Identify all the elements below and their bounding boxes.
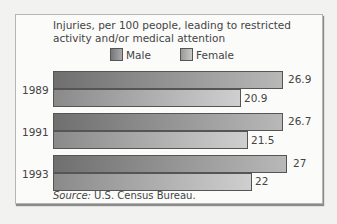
value-label: 20.9 xyxy=(244,92,267,104)
female-swatch-icon xyxy=(180,48,193,61)
legend-male-label: Male xyxy=(126,49,151,61)
source-note: Source: U.S. Census Bureau. xyxy=(53,190,196,201)
year-label: 1993 xyxy=(22,168,49,180)
bar-male-1991 xyxy=(53,113,283,131)
value-label: 27 xyxy=(293,157,306,169)
legend-female-label: Female xyxy=(196,49,234,61)
male-swatch-icon xyxy=(110,48,123,61)
bar-male-1993 xyxy=(53,155,287,173)
value-label: 22 xyxy=(255,175,268,187)
source-text: U.S. Census Bureau. xyxy=(91,190,196,201)
bar-female-1991 xyxy=(53,131,248,149)
value-label: 26.9 xyxy=(288,73,311,85)
chart-title: Injuries, per 100 people, leading to res… xyxy=(53,19,313,45)
year-label: 1989 xyxy=(22,84,49,96)
bar-male-1989 xyxy=(53,71,283,89)
source-label: Source: xyxy=(53,190,91,201)
year-label: 1991 xyxy=(22,126,49,138)
bar-female-1993 xyxy=(53,173,252,191)
bar-female-1989 xyxy=(53,89,241,107)
legend-male: Male xyxy=(110,48,151,61)
legend-female: Female xyxy=(180,48,234,61)
value-label: 21.5 xyxy=(251,134,274,146)
value-label: 26.7 xyxy=(288,115,311,127)
